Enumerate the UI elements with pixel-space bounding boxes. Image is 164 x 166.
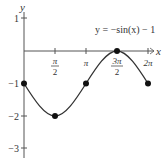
x-axis-label: x [155,45,161,57]
x-tick-label-3pi-half-num: 3π [111,56,122,66]
x-tick-label-pi-half-den: 2 [53,67,58,77]
x-tick-label-3pi-half-den: 2 [115,67,120,77]
x-tick-label-pi: π [84,58,89,68]
y-tick-label-1: 1 [14,13,19,24]
y-axis-label: y [19,1,25,13]
x-tick-label-pi-half-num: π [53,56,58,66]
y-tick-label-m3: −3 [8,143,19,154]
equation-label: y = −sin(x) − 1 [95,24,155,36]
point-pi-half [52,113,58,119]
x-tick-label-2pi: 2π [143,58,153,68]
point-3pi-half [114,48,120,54]
point-0 [21,81,27,87]
y-tick-label-m1: −1 [8,78,19,89]
y-tick-label-m2: −2 [8,111,19,122]
point-pi [83,81,89,87]
point-2pi [145,81,151,87]
function-plot: y x 1 −1 −2 −3 π 2 π 3π 2 2π y = −sin(x)… [0,0,164,166]
